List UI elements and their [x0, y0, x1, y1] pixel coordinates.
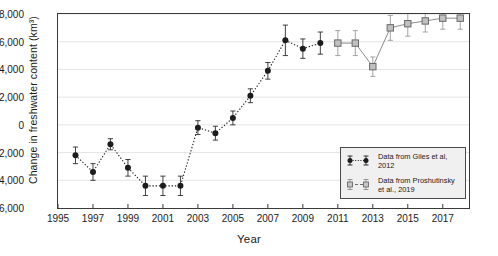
x-tick-label: 2003	[187, 213, 209, 224]
y-tick-label: 0	[18, 119, 24, 130]
y-tick-label: 8,000	[0, 9, 24, 20]
filled-circle-marker-icon	[346, 153, 376, 166]
freshwater-content-chart: Change in freshwater content (km³) Year …	[0, 0, 498, 256]
legend-item-proshutinsky: Data from Proshutinsky et al., 2019	[346, 177, 461, 194]
x-axis-title: Year	[0, 233, 498, 245]
x-tick-label: 2001	[152, 213, 174, 224]
x-tick-label: 2013	[362, 213, 384, 224]
x-tick-label: 2007	[257, 213, 279, 224]
x-tick-label: 1995	[47, 213, 69, 224]
y-tick-label: -6,000	[0, 203, 24, 214]
y-tick-label: 4,000	[0, 64, 24, 75]
y-tick-label: -4,000	[0, 175, 24, 186]
y-tick-label: 6,000	[0, 36, 24, 47]
legend-item-giles: Data from Giles et al, 2012	[346, 153, 461, 170]
x-tick-label: 2009	[292, 213, 314, 224]
legend-label-proshutinsky: Data from Proshutinsky et al., 2019	[376, 177, 455, 194]
x-tick-label: 2005	[222, 213, 244, 224]
y-tick-label: -2,000	[0, 147, 24, 158]
chart-legend: Data from Giles et al, 2012 Data from Pr…	[340, 147, 466, 199]
y-tick-label: 2,000	[0, 92, 24, 103]
x-tick-label: 1999	[117, 213, 139, 224]
x-tick-label: 1997	[82, 213, 104, 224]
x-tick-label: 2015	[397, 213, 419, 224]
legend-label-giles: Data from Giles et al, 2012	[376, 153, 461, 170]
y-axis-title: Change in freshwater content (km³)	[27, 5, 39, 195]
x-tick-label: 2011	[327, 213, 349, 224]
x-tick-label: 2017	[432, 213, 454, 224]
open-square-marker-icon	[346, 177, 376, 190]
